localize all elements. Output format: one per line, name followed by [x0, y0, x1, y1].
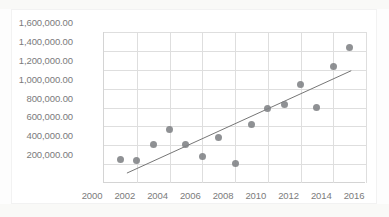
data-point [281, 101, 288, 108]
gridline-vertical [366, 32, 367, 183]
scan-tint-top [0, 0, 389, 9]
y-axis-tick-label: 800,000.00 [0, 93, 73, 104]
data-point [199, 153, 206, 160]
y-axis-tick-label: 1,200,000.00 [0, 55, 73, 66]
y-axis-tick-label: 1,000,000.00 [0, 74, 73, 85]
chart-figure: 200,000.00400,000.00600,000.00800,000.00… [0, 0, 389, 217]
y-axis-tick-label: 600,000.00 [0, 111, 73, 122]
scan-tint-bottom [0, 204, 389, 217]
plot-area [103, 32, 365, 183]
x-axis-tick-label: 2016 [334, 190, 374, 201]
data-point [150, 141, 157, 148]
data-point [313, 104, 320, 111]
y-axis-tick-label: 1,600,000.00 [0, 17, 73, 28]
data-point [346, 44, 353, 51]
y-axis-tick-label: 400,000.00 [0, 130, 73, 141]
data-point [297, 81, 304, 88]
y-axis-tick-label: 200,000.00 [0, 149, 73, 160]
data-point [232, 160, 239, 167]
data-point [117, 156, 124, 163]
chart-frame: 200,000.00400,000.00600,000.00800,000.00… [11, 9, 377, 204]
y-axis-tick-label: 1,400,000.00 [0, 36, 73, 47]
